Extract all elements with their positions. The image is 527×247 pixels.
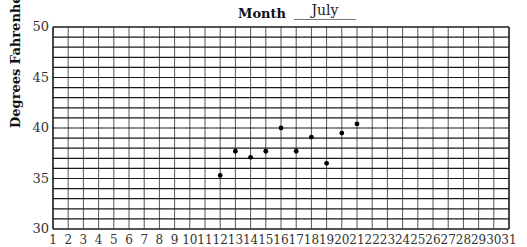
data-point — [233, 149, 238, 154]
x-tick-label: 14 — [243, 233, 259, 247]
x-tick-label: 16 — [273, 233, 288, 247]
x-tick-label: 23 — [380, 233, 395, 247]
temperature-chart: 3035404550 12345678910111213141516171819… — [0, 0, 527, 247]
x-tick-label: 11 — [197, 233, 212, 247]
x-tick-label: 24 — [395, 233, 411, 247]
y-tick-label: 30 — [32, 221, 49, 236]
y-axis-ticks: 3035404550 — [32, 19, 49, 236]
x-axis-ticks: 1234567891011121314151617181920212223242… — [49, 233, 516, 247]
x-tick-label: 22 — [365, 233, 380, 247]
x-tick-label: 10 — [182, 233, 197, 247]
data-point — [248, 155, 253, 160]
x-tick-label: 5 — [110, 233, 118, 247]
x-tick-label: 2 — [64, 233, 72, 247]
x-tick-label: 7 — [140, 233, 148, 247]
x-tick-label: 30 — [486, 233, 501, 247]
data-point — [294, 149, 299, 154]
x-tick-label: 8 — [156, 233, 164, 247]
x-tick-label: 18 — [304, 233, 319, 247]
x-tick-label: 13 — [228, 233, 243, 247]
x-tick-label: 29 — [471, 233, 486, 247]
x-tick-label: 4 — [95, 233, 103, 247]
x-tick-label: 1 — [49, 233, 57, 247]
x-tick-label: 15 — [258, 233, 273, 247]
x-tick-label: 6 — [125, 233, 133, 247]
y-tick-label: 35 — [32, 171, 49, 186]
data-point — [218, 173, 223, 178]
x-tick-label: 31 — [501, 233, 516, 247]
x-tick-label: 25 — [410, 233, 425, 247]
data-point — [263, 149, 268, 154]
x-tick-label: 17 — [289, 233, 304, 247]
y-tick-label: 45 — [32, 70, 49, 85]
x-tick-label: 21 — [349, 233, 364, 247]
data-point — [355, 122, 360, 127]
data-point — [279, 126, 284, 131]
x-tick-label: 27 — [441, 233, 456, 247]
data-point — [309, 135, 314, 140]
x-tick-label: 3 — [80, 233, 88, 247]
x-tick-label: 20 — [334, 233, 349, 247]
x-tick-label: 26 — [425, 233, 440, 247]
x-tick-label: 12 — [213, 233, 228, 247]
y-tick-label: 50 — [32, 19, 49, 34]
x-tick-label: 28 — [456, 233, 471, 247]
data-point — [339, 131, 344, 136]
data-points — [218, 122, 360, 178]
y-tick-label: 40 — [32, 120, 49, 135]
data-point — [324, 161, 329, 166]
x-tick-label: 19 — [319, 233, 334, 247]
x-tick-label: 9 — [171, 233, 179, 247]
